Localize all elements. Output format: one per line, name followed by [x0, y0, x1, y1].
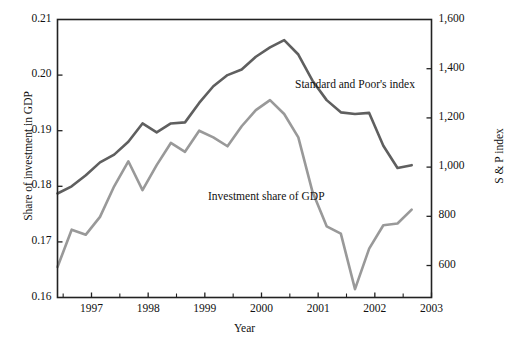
y-tick-label-left: 0.20	[8, 67, 52, 79]
series-annotation-sp-index: Standard and Poor's index	[295, 78, 415, 90]
y-axis-right-title: S & P index	[493, 66, 505, 246]
x-tick-label: 2001	[288, 302, 348, 314]
series-annotation-investment-share: Investment share of GDP	[208, 190, 325, 202]
x-axis-title: Year	[57, 322, 432, 334]
x-tick-label: 1999	[175, 302, 235, 314]
y-tick-label-right: 1,600	[439, 12, 483, 24]
x-tick-label: 2000	[232, 302, 292, 314]
y-tick-label-left: 0.19	[8, 123, 52, 135]
y-tick-label-left: 0.16	[8, 290, 52, 302]
x-tick-label: 1998	[118, 302, 178, 314]
series-line-sp-index	[58, 40, 412, 193]
y-tick-label-right: 600	[439, 258, 483, 270]
plot-frame	[58, 20, 432, 298]
axis-ticks-group	[58, 69, 432, 298]
y-axis-left-title: Share of investment in GDP	[22, 66, 34, 246]
x-tick-label: 1997	[62, 302, 122, 314]
y-tick-label-right: 800	[439, 208, 483, 220]
x-tick-label: 2002	[345, 302, 405, 314]
y-tick-label-left: 0.21	[8, 12, 52, 24]
y-tick-label-left: 0.18	[8, 178, 52, 190]
y-tick-label-right: 1,200	[439, 110, 483, 122]
x-tick-label: 2003	[402, 302, 462, 314]
y-tick-label-left: 0.17	[8, 234, 52, 246]
y-tick-label-right: 1,400	[439, 61, 483, 73]
y-tick-label-right: 1,000	[439, 159, 483, 171]
